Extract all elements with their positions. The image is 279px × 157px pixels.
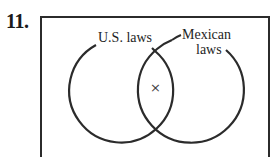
mexican-label-leader [172,35,181,40]
venn-diagram [0,0,279,157]
us-laws-label: U.S. laws [98,31,152,45]
intersection-x-mark: × [150,81,161,94]
mexican-laws-label-line1: Mexican [182,28,231,42]
mexican-laws-label-line2: laws [196,43,222,57]
